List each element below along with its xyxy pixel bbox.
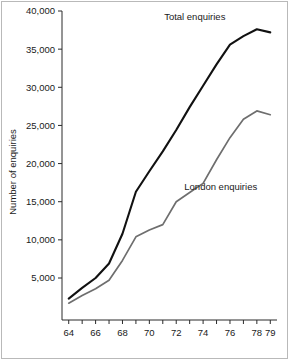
- x-tick-label: 76: [225, 327, 236, 338]
- series-annotations: Total enquiriesLondon enquiries: [164, 11, 257, 191]
- y-tick-label: 35,000: [26, 44, 55, 55]
- x-tick-label: 78: [252, 327, 263, 338]
- y-tick-label: 40,000: [26, 5, 55, 16]
- y-axis-title-text: Number of enquiries: [7, 129, 18, 215]
- x-tick-label: 79: [265, 327, 276, 338]
- x-tick-label: 64: [63, 327, 74, 338]
- chart-figure: 5,00010,00015,00020,00025,00030,00035,00…: [0, 0, 290, 361]
- y-tick-label: 30,000: [26, 82, 55, 93]
- series-label-total-enquiries: Total enquiries: [164, 11, 226, 22]
- x-tick-label: 66: [90, 327, 101, 338]
- x-tick-label: 70: [144, 327, 155, 338]
- y-axis-title: Number of enquiries: [7, 129, 18, 215]
- line-chart-canvas: 5,00010,00015,00020,00025,00030,00035,00…: [0, 0, 290, 361]
- y-tick-label: 5,000: [31, 272, 55, 283]
- y-tick-label: 20,000: [26, 158, 55, 169]
- series-line-total-enquiries: [69, 29, 271, 298]
- y-tick-label: 25,000: [26, 120, 55, 131]
- x-tick-label: 68: [117, 327, 128, 338]
- x-tick-label: 74: [198, 327, 209, 338]
- x-tick-label: 72: [171, 327, 182, 338]
- y-axis: 5,00010,00015,00020,00025,00030,00035,00…: [26, 5, 62, 320]
- series-lines: [69, 29, 271, 303]
- series-label-london-enquiries: London enquiries: [184, 181, 257, 192]
- y-tick-label: 15,000: [26, 196, 55, 207]
- x-axis: 646668707274767879: [62, 320, 277, 338]
- y-tick-label: 10,000: [26, 234, 55, 245]
